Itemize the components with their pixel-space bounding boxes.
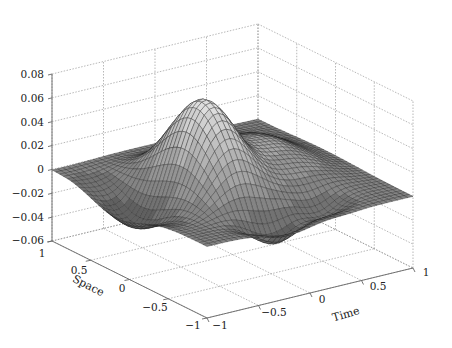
time-axis-label: Time <box>331 304 361 324</box>
space-axis-ticks: 1 0.5 0 −0.5 −1 <box>39 247 201 331</box>
z-axis-ticks: 0.08 0.06 0.04 0.02 0 −0.02 −0.04 −0.06 <box>12 68 44 246</box>
time-tick-label: 0 <box>319 293 326 305</box>
time-tick-label: −1 <box>212 319 227 331</box>
z-tick-label: −0.06 <box>12 234 44 246</box>
time-axis-ticks: −1 −0.5 0 0.5 1 <box>212 266 429 331</box>
space-tick-label: 0 <box>119 282 126 294</box>
z-tick-label: 0.06 <box>21 92 45 104</box>
time-tick-label: −0.5 <box>261 306 287 318</box>
surface-mesh <box>52 99 413 247</box>
z-tick-label: −0.02 <box>12 187 44 199</box>
surface-plot: 0.08 0.06 0.04 0.02 0 −0.02 −0.04 −0.06 … <box>0 0 452 348</box>
space-axis-label: Space <box>70 272 106 299</box>
space-tick-label: −0.5 <box>142 301 168 313</box>
time-tick-label: 0.5 <box>370 280 387 292</box>
z-tick-label: 0.04 <box>21 116 45 128</box>
z-tick-label: 0.02 <box>21 139 44 151</box>
time-tick-label: 1 <box>423 266 430 278</box>
space-tick-label: 1 <box>39 247 46 259</box>
z-tick-label: 0 <box>37 163 44 175</box>
z-tick-label: 0.08 <box>21 68 44 80</box>
z-tick-label: −0.04 <box>12 211 44 223</box>
space-tick-label: −1 <box>185 319 200 331</box>
